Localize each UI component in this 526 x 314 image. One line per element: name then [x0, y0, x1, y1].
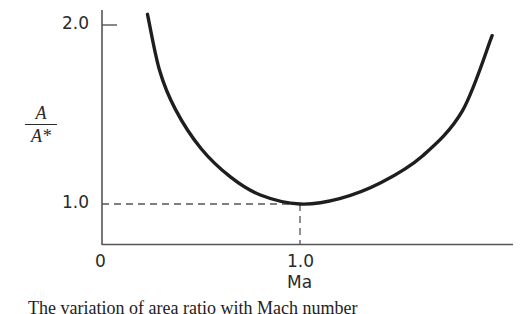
x-tick-label-0: 0 — [95, 251, 106, 271]
x-tick-label-1: 1.0 — [287, 251, 314, 271]
y-axis-label-denominator: A* — [26, 125, 56, 145]
figure-caption: The variation of area ratio with Mach nu… — [28, 298, 357, 314]
y-axis-label: A A* — [26, 104, 56, 145]
reference-lines — [102, 204, 300, 244]
y-tick-label-2: 2.0 — [62, 13, 89, 33]
area-ratio-curve — [148, 14, 493, 204]
y-axis-label-numerator: A — [26, 104, 56, 124]
y-tick-label-1: 1.0 — [62, 192, 89, 212]
figure: 2.0 1.0 0 1.0 Ma A A* The variation of a… — [0, 0, 526, 314]
x-axis-label: Ma — [287, 272, 312, 292]
chart-plot-area — [0, 0, 526, 314]
